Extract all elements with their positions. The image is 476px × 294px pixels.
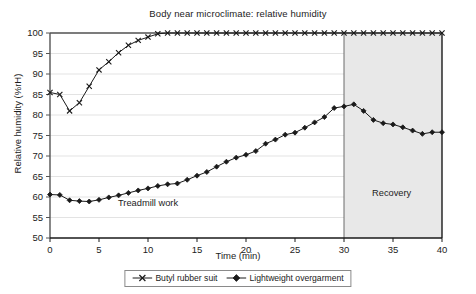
y-axis-title: Relative humidity (%rH) [12, 44, 23, 204]
x-axis-title: Time (min) [0, 250, 476, 261]
legend-item-lightweight-overgarment[interactable]: Lightweight overgarment [227, 273, 344, 283]
legend-label-butyl-rubber-suit: Butyl rubber suit [155, 274, 217, 283]
svg-text:100: 100 [27, 27, 43, 38]
chart-legend: Butyl rubber suit Lightweight overgarmen… [124, 270, 351, 287]
svg-text:70: 70 [32, 150, 43, 161]
svg-text:85: 85 [32, 89, 43, 100]
svg-text:60: 60 [32, 191, 43, 202]
svg-text:50: 50 [32, 232, 43, 243]
legend-item-butyl-rubber-suit[interactable]: Butyl rubber suit [132, 273, 217, 283]
chart-figure: Body near microclimate: relative humidit… [0, 0, 476, 294]
legend-marker-diamond-icon [227, 273, 247, 283]
svg-text:80: 80 [32, 109, 43, 120]
legend-label-lightweight-overgarment: Lightweight overgarment [250, 274, 344, 283]
annotation-treadmill-work: Treadmill work [118, 198, 178, 208]
legend-marker-x-icon [132, 273, 152, 283]
svg-text:75: 75 [32, 130, 43, 141]
svg-text:95: 95 [32, 48, 43, 59]
annotation-recovery: Recovery [372, 188, 411, 198]
svg-text:65: 65 [32, 171, 43, 182]
recovery-region [344, 33, 442, 238]
svg-text:55: 55 [32, 212, 43, 223]
svg-text:90: 90 [32, 68, 43, 79]
